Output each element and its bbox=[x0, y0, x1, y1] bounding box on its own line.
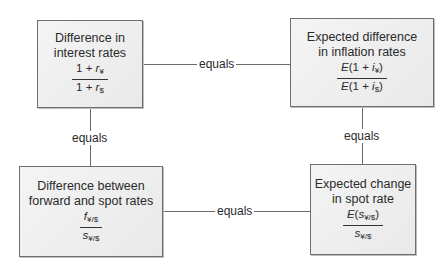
box-interest-title-2: interest rates bbox=[54, 46, 126, 61]
interest-ratio-numerator: 1 + r¥ bbox=[72, 62, 108, 80]
box-forward-title-2: forward and spot rates bbox=[29, 194, 153, 209]
inflation-ratio-numerator: E(1 + i¥) bbox=[337, 61, 387, 79]
box-inflation-title-2: in inflation rates bbox=[318, 45, 406, 60]
inflation-rate-ratio: E(1 + i¥) E(1 + i$) bbox=[337, 61, 387, 96]
connector-bottom-label: equals bbox=[215, 204, 254, 218]
spot-change-ratio: E(s¥/$) s¥/$ bbox=[343, 208, 383, 243]
box-forward-title-1: Difference between bbox=[37, 179, 144, 194]
box-spot-title-1: Expected change bbox=[315, 177, 412, 192]
box-inflation-rates: Expected difference in inflation rates E… bbox=[290, 18, 434, 107]
connector-right-label: equals bbox=[342, 129, 381, 143]
box-interest-rates: Difference in interest rates 1 + r¥ 1 + … bbox=[37, 20, 143, 108]
forward-spot-ratio: f¥/$ s¥/$ bbox=[79, 210, 104, 245]
interest-ratio-denominator: 1 + r$ bbox=[72, 80, 108, 97]
box-spot-title-2: in spot rate bbox=[332, 192, 394, 207]
spot-ratio-numerator: E(s¥/$) bbox=[343, 208, 383, 226]
box-interest-title-1: Difference in bbox=[55, 31, 125, 46]
forward-ratio-denominator: s¥/$ bbox=[79, 228, 104, 245]
box-spot-change: Expected change in spot rate E(s¥/$) s¥/… bbox=[310, 164, 416, 255]
box-forward-spot: Difference between forward and spot rate… bbox=[19, 166, 163, 257]
box-inflation-title-1: Expected difference bbox=[307, 30, 417, 45]
forward-ratio-numerator: f¥/$ bbox=[80, 210, 102, 228]
inflation-ratio-denominator: E(1 + i$) bbox=[337, 79, 387, 96]
connector-left-label: equals bbox=[70, 131, 109, 145]
interest-rate-ratio: 1 + r¥ 1 + r$ bbox=[72, 62, 108, 97]
connector-top-label: equals bbox=[197, 57, 236, 71]
spot-ratio-denominator: s¥/$ bbox=[351, 226, 376, 243]
